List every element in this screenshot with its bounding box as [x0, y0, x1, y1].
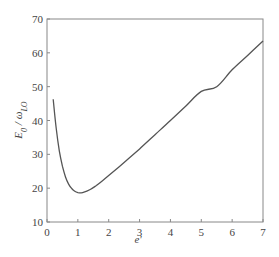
x-tick-label: 7: [260, 226, 266, 238]
y-tick-label: 20: [32, 182, 44, 194]
y-tick-label: 30: [32, 148, 44, 160]
x-tick-label: 1: [75, 226, 81, 238]
y-tick-label: 40: [32, 115, 44, 127]
x-axis-label: e': [134, 233, 142, 245]
plot-frame: [47, 19, 263, 222]
x-tick-label: 0: [44, 226, 50, 238]
x-tick-label: 4: [168, 226, 174, 238]
data-curve: [53, 41, 263, 193]
y-tick-label: 70: [32, 13, 44, 25]
y-tick-label: 50: [32, 81, 44, 93]
y-tick-label: 60: [32, 47, 44, 59]
x-tick-label: 6: [229, 226, 235, 238]
line-chart: 01234567 10203040506070 e' E0 / ωLO: [0, 0, 279, 257]
y-tick-label: 10: [32, 216, 44, 228]
x-tick-label: 5: [199, 226, 205, 238]
y-axis-label: E0 / ωLO: [12, 101, 29, 140]
x-tick-label: 2: [106, 226, 112, 238]
